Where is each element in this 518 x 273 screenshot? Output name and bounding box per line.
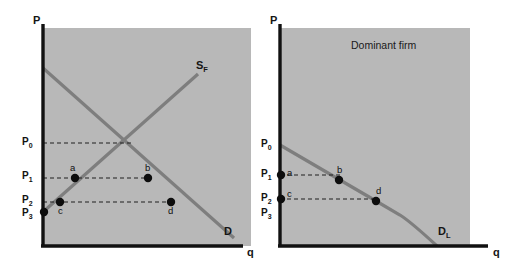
price-label-p3: P3 — [22, 208, 33, 220]
point-label-d: d — [376, 186, 381, 196]
point-b-marker — [144, 174, 152, 182]
price-label-p0: P0 — [22, 137, 33, 149]
price-label-p2-text: P — [261, 192, 268, 203]
point-label-b: b — [145, 163, 150, 173]
point-label-a: a — [70, 163, 75, 173]
price-label-p2-text: P — [22, 194, 29, 205]
price-label-p0-text: P — [261, 138, 268, 149]
curve-label-DL-sub: L — [446, 231, 451, 240]
panel-left-canvas — [0, 0, 259, 273]
panel-competitive-fringe: P q P0 P1 P2 P3 SF D a b c d — [0, 0, 259, 273]
price-label-p0-sub: 0 — [268, 144, 272, 151]
panel-dominant-firm: Dominant firm P q P0 P1 P2 P3 DL a b c d — [259, 0, 518, 273]
curve-label-SF: SF — [196, 60, 208, 74]
price-label-p1-text: P — [261, 168, 268, 179]
price-label-p2: P2 — [22, 195, 33, 207]
price-label-p1-text: P — [22, 170, 29, 181]
price-label-p3-sub: 3 — [29, 213, 33, 220]
price-label-p1-sub: 1 — [29, 176, 33, 183]
price-label-p3-text: P — [261, 207, 268, 218]
price-label-p2-sub: 2 — [268, 198, 272, 205]
plot-area-fill — [280, 28, 470, 246]
price-label-p0-sub: 0 — [29, 142, 33, 149]
price-label-p3-text: P — [22, 207, 29, 218]
point-label-d: d — [168, 206, 173, 216]
point-p3-marker — [40, 208, 48, 216]
point-a-marker — [277, 171, 285, 179]
curve-label-D: D — [224, 226, 232, 237]
price-label-p1-sub: 1 — [268, 174, 272, 181]
point-a-marker — [71, 174, 79, 182]
curve-label-DL: DL — [438, 226, 451, 240]
figure-root: P q P0 P1 P2 P3 SF D a b c d — [0, 0, 518, 273]
x-axis-label: q — [247, 247, 254, 258]
price-label-p0-text: P — [22, 136, 29, 147]
point-c-marker — [277, 195, 285, 203]
plot-area-fill — [43, 28, 251, 246]
point-label-a: a — [287, 168, 292, 178]
y-axis-label: P — [33, 15, 40, 26]
point-b-marker — [335, 176, 343, 184]
price-label-p3: P3 — [261, 208, 272, 220]
point-label-b: b — [337, 165, 342, 175]
point-d-marker — [372, 197, 380, 205]
point-label-c: c — [58, 206, 63, 216]
curve-label-DL-text: D — [438, 225, 446, 237]
price-label-p1: P1 — [22, 171, 33, 183]
y-axis-label: P — [270, 15, 277, 26]
point-label-c: c — [287, 189, 292, 199]
price-label-p1: P1 — [261, 169, 272, 181]
curve-label-SF-sub: F — [203, 65, 208, 74]
price-label-p2: P2 — [261, 193, 272, 205]
x-axis-label: q — [493, 247, 500, 258]
panel-title-dominant-firm: Dominant firm — [351, 40, 416, 51]
price-label-p2-sub: 2 — [29, 200, 33, 207]
price-label-p3-sub: 3 — [268, 213, 272, 220]
price-label-p0: P0 — [261, 139, 272, 151]
